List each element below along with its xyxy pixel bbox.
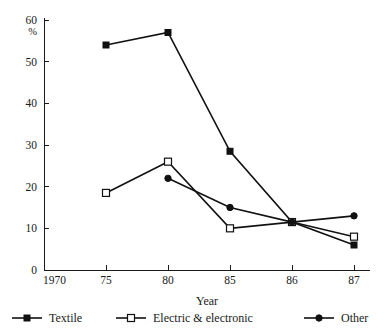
x-tick-label: 1970 [43, 274, 66, 286]
axis-labels: Year [196, 294, 218, 308]
legend-item[interactable]: Electric & electronic [116, 311, 253, 325]
legend-item[interactable]: Textile [12, 311, 82, 325]
data-point-marker [165, 158, 172, 165]
legend-item[interactable]: Other [304, 311, 368, 325]
data-point-marker [227, 148, 233, 154]
y-tick-label: 60 [26, 14, 38, 26]
data-point-marker [351, 213, 357, 219]
series-polyline [106, 33, 354, 246]
data-point-marker [316, 315, 322, 321]
x-tick-label: 80 [162, 274, 174, 286]
y-tick-label: 50 [26, 56, 38, 68]
data-point-marker [227, 225, 234, 232]
data-point-marker [351, 242, 357, 248]
chart-legend: TextileElectric & electronicOther [12, 311, 368, 325]
data-point-marker [351, 233, 358, 240]
series-layer [103, 30, 358, 249]
series-polyline [168, 178, 354, 222]
data-point-marker [24, 315, 30, 321]
data-point-marker [289, 219, 295, 225]
x-axis: 19707580858687 [43, 265, 370, 286]
x-tick-label: 87 [348, 274, 360, 286]
chart-series [103, 158, 358, 240]
data-point-marker [103, 189, 110, 196]
chart-series [103, 30, 357, 249]
x-tick-label: 86 [286, 274, 298, 286]
line-chart: 0102030405060% 19707580858687 Year Texti… [0, 0, 386, 332]
chart-series [165, 175, 357, 225]
y-tick-label: 30 [26, 139, 38, 151]
y-tick-label: 40 [26, 97, 38, 109]
legend-item-label: Textile [49, 311, 82, 325]
y-tick-label: 10 [26, 222, 38, 234]
x-tick-label: 85 [224, 274, 236, 286]
data-point-marker [165, 30, 171, 36]
x-tick-label: 75 [100, 274, 112, 286]
data-point-marker [227, 204, 233, 210]
y-tick-label: 0 [31, 264, 37, 276]
data-point-marker [165, 175, 171, 181]
legend-item-label: Other [341, 311, 368, 325]
x-axis-title: Year [196, 294, 218, 308]
chart-canvas: 0102030405060% 19707580858687 Year Texti… [0, 0, 386, 332]
y-axis: 0102030405060% [26, 14, 50, 276]
y-axis-unit-label: % [28, 26, 37, 37]
y-tick-label: 20 [26, 181, 38, 193]
legend-item-label: Electric & electronic [153, 311, 253, 325]
data-point-marker [103, 42, 109, 48]
data-point-marker [128, 315, 135, 322]
